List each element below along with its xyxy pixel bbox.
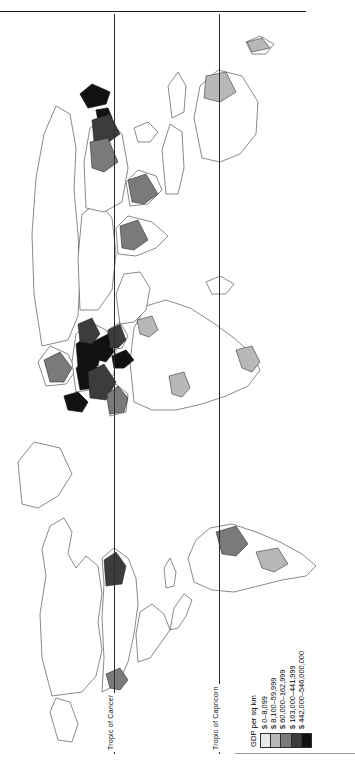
tropic-of-capricorn-line xyxy=(219,14,220,754)
tropic-of-capricorn-label: Tropic of Capricorn xyxy=(211,684,220,752)
legend-label: $ 8,100–59,999 xyxy=(269,650,278,728)
legend-swatch-column xyxy=(260,733,311,748)
legend-title: GDP per sq km xyxy=(249,650,258,746)
top-rule-divider xyxy=(0,11,306,12)
landmass-mexico xyxy=(136,604,170,662)
legend-label-column: $ 0–8,099 $ 8,100–59,999 $ 60,000–162,99… xyxy=(260,650,306,728)
legend-swatch[interactable] xyxy=(260,733,271,748)
landmass-centralamerica xyxy=(170,594,192,630)
landmass-russia xyxy=(32,106,80,346)
landmass-philippines xyxy=(134,122,158,142)
world-map[interactable]: Tropic of Cancer Tropic of Capricorn xyxy=(6,14,346,754)
tropic-of-cancer-line xyxy=(114,14,115,754)
shade-japan xyxy=(80,84,110,108)
legend-swatch[interactable] xyxy=(280,733,291,748)
landmass-central-asia xyxy=(78,202,116,310)
legend-label: $ 0–8,099 xyxy=(260,650,269,728)
landmass-south-america xyxy=(188,524,316,592)
legend-entries: $ 0–8,099 $ 8,100–59,999 $ 60,000–162,99… xyxy=(260,650,311,747)
legend-swatch[interactable] xyxy=(270,733,281,748)
legend-label: $ 442,000–546,000,000 xyxy=(296,650,305,728)
legend-swatch[interactable] xyxy=(300,733,311,748)
map-legend: GDP per sq km $ 0–8,099 $ 8,100–59,999 $… xyxy=(249,650,311,747)
legend-swatch[interactable] xyxy=(290,733,301,748)
landmass-caribbean xyxy=(164,558,176,588)
landmass-indonesia xyxy=(162,124,184,194)
landmass-alaska xyxy=(50,698,78,742)
legend-label: $ 60,000–162,999 xyxy=(278,650,287,728)
legend-divider xyxy=(235,753,355,754)
tropic-of-cancer-label: Tropic of Cancer xyxy=(106,692,115,751)
rotated-figure-stage: Tropic of Cancer Tropic of Capricorn GDP… xyxy=(6,14,346,754)
landmass-canada xyxy=(40,518,102,696)
landmass-greenland xyxy=(18,442,72,508)
shade-uk xyxy=(64,392,88,412)
world-map-svg[interactable] xyxy=(6,14,346,754)
legend-label: $ 163,000–441,999 xyxy=(287,650,296,728)
landmass-new-guinea xyxy=(168,72,186,118)
